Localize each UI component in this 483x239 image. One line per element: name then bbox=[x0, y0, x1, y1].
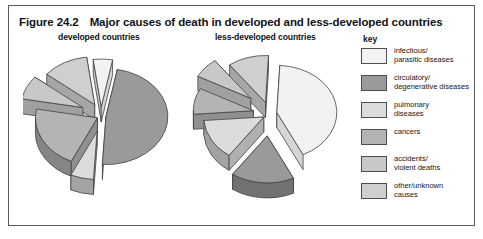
page-title: Major causes of death in developed and l… bbox=[90, 16, 443, 28]
legend-item: pulmonary diseases bbox=[361, 100, 481, 126]
legend-item: other/unknown causes bbox=[361, 181, 481, 207]
figure-header: Figure 24.2Major causes of death in deve… bbox=[19, 12, 442, 30]
legend-item: infectious/ parasitic diseases bbox=[361, 46, 481, 72]
legend-item: circulatory/ degenerative diseases bbox=[361, 73, 481, 99]
legend-item: accidents/ violent deaths bbox=[361, 154, 481, 180]
legend: infectious/ parasitic diseases circulato… bbox=[361, 46, 481, 208]
legend-title: key bbox=[363, 34, 377, 44]
legend-label: accidents/ violent deaths bbox=[394, 154, 440, 173]
chart-title-developed: developed countries bbox=[58, 32, 140, 42]
figure-number: Figure 24.2 bbox=[19, 16, 79, 28]
chart-title-less-developed: less-developed countries bbox=[215, 32, 316, 42]
figure-frame: Figure 24.2Major causes of death in deve… bbox=[8, 5, 475, 226]
legend-label: infectious/ parasitic diseases bbox=[394, 46, 453, 65]
legend-swatch-circulatory-degenerative-diseases bbox=[361, 75, 387, 91]
legend-swatch-accidents-violent-deaths bbox=[361, 156, 387, 172]
pie-chart-less-developed bbox=[189, 44, 354, 199]
legend-swatch-infectious-parasitic-diseases bbox=[361, 48, 387, 64]
legend-swatch-pulmonary-diseases bbox=[361, 102, 387, 118]
pie-chart-developed bbox=[23, 44, 188, 199]
legend-swatch-other-unknown-causes bbox=[361, 183, 387, 199]
legend-label: cancers bbox=[394, 127, 420, 136]
legend-label: pulmonary diseases bbox=[394, 100, 429, 119]
legend-item: cancers bbox=[361, 127, 481, 153]
legend-label: circulatory/ degenerative diseases bbox=[394, 73, 469, 92]
legend-swatch-cancers bbox=[361, 129, 387, 145]
legend-label: other/unknown causes bbox=[394, 181, 443, 200]
